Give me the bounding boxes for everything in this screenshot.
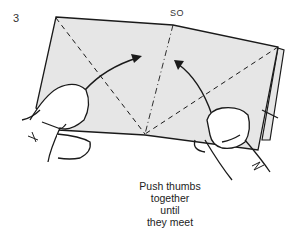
caption-line: together <box>110 192 230 204</box>
left-thumb <box>22 84 90 162</box>
caption-line: Push thumbs <box>110 180 230 192</box>
step-number: 3 <box>13 12 19 24</box>
fold-label: SO <box>170 8 184 18</box>
instruction-caption: Push thumbs together until they meet <box>110 180 230 228</box>
caption-line: until <box>110 204 230 216</box>
caption-line: they meet <box>110 216 230 228</box>
